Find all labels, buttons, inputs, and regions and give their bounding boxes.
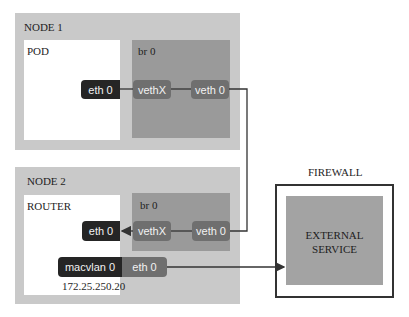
node-1-veth0-interface: veth 0: [191, 80, 229, 99]
macvlan-interface: macvlan 0: [58, 257, 122, 277]
node-2-veth0-interface: veth 0: [192, 221, 230, 241]
node-1-vethx-interface: vethX: [133, 80, 171, 99]
router-eth0-interface: eth 0: [82, 221, 120, 241]
router-ip-address: 172.25.250.20: [62, 280, 125, 292]
node-2-vethx-interface: vethX: [133, 221, 171, 241]
pod-eth0-interface: eth 0: [81, 80, 120, 99]
macvlan-eth0-interface: eth 0: [122, 257, 167, 277]
